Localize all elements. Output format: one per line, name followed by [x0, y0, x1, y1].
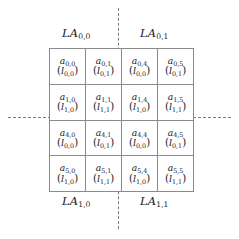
- quadrant-label-top-right: LA0,1: [140, 26, 168, 40]
- table-row: a0,0 (l0,0) a0,1 (l0,1) a0,4 (l0,0) a0,5…: [50, 49, 194, 85]
- global-index-term: a1,5: [158, 92, 193, 101]
- array-cell: a1,5 (l1,1): [158, 84, 194, 120]
- array-cell: a5,0 (l1,0): [50, 156, 86, 192]
- array-cell: a1,4 (l1,0): [122, 84, 158, 120]
- table-row: a1,0 (l1,0) a1,1 (l1,1) a1,4 (l1,0) a1,5…: [50, 84, 194, 120]
- global-index-term: a4,1: [86, 128, 121, 137]
- array-cell: a0,5 (l0,1): [158, 49, 194, 85]
- quadrant-label-subscript: 1,0: [78, 200, 90, 209]
- quadrant-label-base: LA: [140, 26, 156, 40]
- array-cell: a1,1 (l1,1): [86, 84, 122, 120]
- array-cell: a5,1 (l1,1): [86, 156, 122, 192]
- table-row: a5,0 (l1,0) a5,1 (l1,1) a5,4 (l1,0) a5,5…: [50, 156, 194, 192]
- global-index-term: a0,4: [122, 56, 157, 65]
- local-index-term: (l0,0): [50, 138, 85, 148]
- global-index-term: a1,0: [50, 92, 85, 101]
- local-index-term: (l1,0): [50, 174, 85, 184]
- quadrant-label-subscript: 1,1: [156, 200, 168, 209]
- local-index-term: (l0,0): [122, 138, 157, 148]
- array-cell: a4,4 (l0,0): [122, 120, 158, 156]
- global-index-term: a5,5: [158, 163, 193, 172]
- array-cell: a0,4 (l0,0): [122, 49, 158, 85]
- local-index-term: (l1,0): [122, 174, 157, 184]
- array-cell: a5,5 (l1,1): [158, 156, 194, 192]
- global-index-term: a5,0: [50, 163, 85, 172]
- array-grid: a0,0 (l0,0) a0,1 (l0,1) a0,4 (l0,0) a0,5…: [49, 48, 194, 192]
- array-cell: a4,1 (l0,1): [86, 120, 122, 156]
- local-index-term: (l0,1): [158, 138, 193, 148]
- quadrant-label-subscript: 0,0: [78, 32, 90, 41]
- global-index-term: a5,1: [86, 163, 121, 172]
- quadrant-label-bottom-right: LA1,1: [140, 194, 168, 208]
- global-index-term: a1,4: [122, 92, 157, 101]
- array-cell: a4,0 (l0,0): [50, 120, 86, 156]
- quadrant-label-bottom-left: LA1,0: [62, 194, 90, 208]
- local-index-term: (l0,1): [86, 138, 121, 148]
- array-cell: a1,0 (l1,0): [50, 84, 86, 120]
- local-index-term: (l1,1): [86, 174, 121, 184]
- quadrant-label-base: LA: [62, 194, 78, 208]
- global-index-term: a5,4: [122, 163, 157, 172]
- array-cell: a0,0 (l0,0): [50, 49, 86, 85]
- global-index-term: a4,0: [50, 128, 85, 137]
- array-cell: a0,1 (l0,1): [86, 49, 122, 85]
- global-index-term: a0,1: [86, 56, 121, 65]
- global-index-term: a4,5: [158, 128, 193, 137]
- global-index-term: a0,5: [158, 56, 193, 65]
- array-cell: a5,4 (l1,0): [122, 156, 158, 192]
- quadrant-label-base: LA: [140, 194, 156, 208]
- figure-canvas: LA0,0 LA0,1 LA1,0 LA1,1 a0,0 (l0,0) a0,1…: [0, 0, 239, 239]
- quadrant-label-top-left: LA0,0: [62, 26, 90, 40]
- array-cell: a4,5 (l0,1): [158, 120, 194, 156]
- local-index-term: (l1,1): [158, 174, 193, 184]
- quadrant-label-subscript: 0,1: [156, 32, 168, 41]
- quadrant-label-base: LA: [62, 26, 78, 40]
- global-index-term: a0,0: [50, 56, 85, 65]
- table-row: a4,0 (l0,0) a4,1 (l0,1) a4,4 (l0,0) a4,5…: [50, 120, 194, 156]
- global-index-term: a1,1: [86, 92, 121, 101]
- global-index-term: a4,4: [122, 128, 157, 137]
